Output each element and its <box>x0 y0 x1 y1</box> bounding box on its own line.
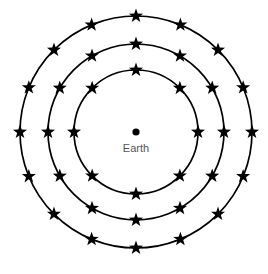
star-icon <box>129 9 143 22</box>
star-icon <box>129 241 143 254</box>
earth-orbit-diagram: Earth <box>0 0 268 274</box>
star-icon <box>205 169 219 182</box>
star-icon <box>129 37 143 50</box>
star-icon <box>205 81 219 94</box>
star-icon <box>173 232 187 245</box>
earth-label: Earth <box>123 142 149 154</box>
star-icon <box>236 169 250 182</box>
star-icon <box>22 80 36 93</box>
star-icon <box>22 169 36 182</box>
star-icon <box>173 17 187 30</box>
star-icon <box>129 187 143 200</box>
star-icon <box>129 213 143 226</box>
star-icon <box>53 81 67 94</box>
earth-dot <box>132 128 139 135</box>
star-icon <box>53 169 67 182</box>
star-icon <box>173 201 187 214</box>
orbit-canvas: Earth <box>0 0 268 274</box>
star-icon <box>85 232 99 245</box>
star-icon <box>129 63 143 76</box>
star-icon <box>85 17 99 30</box>
star-icon <box>236 80 250 93</box>
star-icon <box>85 201 99 214</box>
